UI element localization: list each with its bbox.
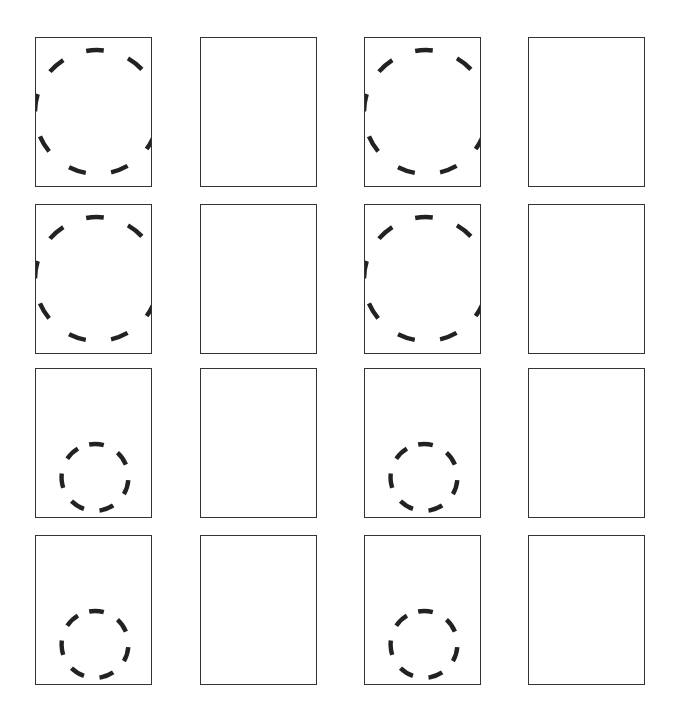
- panel-r1-c2: [200, 37, 317, 187]
- panel-r1-c3: [364, 37, 481, 187]
- panel-r3-c1: [35, 368, 152, 518]
- small-dashed-circle-icon: [365, 536, 480, 684]
- panel-r3-c3: [364, 368, 481, 518]
- panel-r3-c4: [528, 368, 645, 518]
- panel-r2-c3: [364, 204, 481, 354]
- panel-r4-c3: [364, 535, 481, 685]
- small-dashed-circle-icon: [365, 369, 480, 517]
- large-dashed-circle-icon: [36, 38, 151, 186]
- small-dashed-circle-icon: [36, 369, 151, 517]
- panel-r1-c4: [528, 37, 645, 187]
- panel-r2-c2: [200, 204, 317, 354]
- small-dashed-circle-icon: [36, 536, 151, 684]
- panel-r4-c1: [35, 535, 152, 685]
- panel-r1-c1: [35, 37, 152, 187]
- panel-r2-c1: [35, 204, 152, 354]
- large-dashed-circle-icon: [36, 205, 151, 353]
- panel-r2-c4: [528, 204, 645, 354]
- panel-r3-c2: [200, 368, 317, 518]
- panel-r4-c4: [528, 535, 645, 685]
- large-dashed-circle-icon: [365, 205, 480, 353]
- large-dashed-circle-icon: [365, 38, 480, 186]
- panel-r4-c2: [200, 535, 317, 685]
